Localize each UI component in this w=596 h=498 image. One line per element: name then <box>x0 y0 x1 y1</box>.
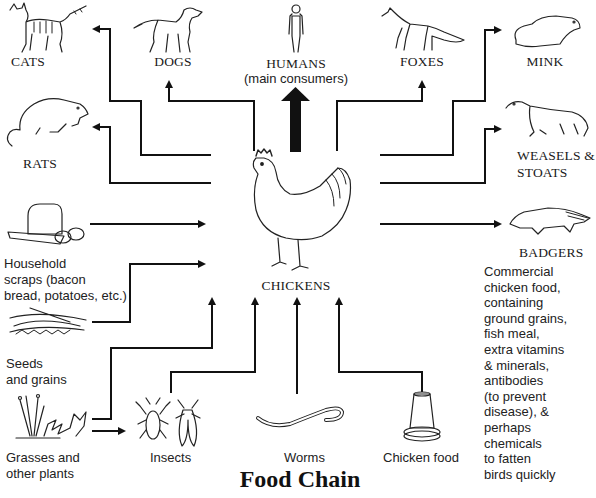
rat-icon <box>7 99 88 146</box>
label-seeds-line1: Seeds <box>6 356 43 372</box>
description-line: chemicals <box>484 436 594 452</box>
label-insects: Insects <box>150 450 191 466</box>
fox-icon <box>382 8 464 50</box>
description-line: birds quickly <box>484 467 594 483</box>
label-humans: HUMANS <box>266 56 326 71</box>
description-line: disease), & <box>484 404 594 420</box>
mink-icon <box>515 16 580 47</box>
badger-icon <box>510 208 590 234</box>
description-line: ground grains, <box>484 311 594 327</box>
chicken-feeder-icon <box>404 392 440 441</box>
description-line: antibodies <box>484 373 594 389</box>
label-household-line3: bread, potatoes, etc.) <box>4 288 127 304</box>
label-badgers: BADGERS <box>519 245 583 260</box>
household-scraps-icon <box>8 204 84 244</box>
description-line: to fatten <box>484 451 594 467</box>
description-line: & minerals, <box>484 358 594 374</box>
label-rats: RATS <box>23 156 57 171</box>
label-worms: Worms <box>284 450 325 466</box>
label-weasels-line2: STOATS <box>517 165 567 180</box>
description-line: Commercial <box>484 264 594 280</box>
cat-icon <box>10 3 86 52</box>
worm-icon <box>258 408 342 425</box>
diagram-title: Food Chain <box>240 466 361 493</box>
label-foxes: FOXES <box>400 54 444 69</box>
label-humans-note: (main consumers) <box>244 71 348 87</box>
description-line: (to prevent <box>484 389 594 405</box>
label-chicken-food: Chicken food <box>383 450 459 466</box>
dog-icon <box>134 8 202 52</box>
label-grasses-line1: Grasses and <box>6 450 80 466</box>
description-line: containing <box>484 295 594 311</box>
description-line: extra vitamins <box>484 342 594 358</box>
label-household-line1: Household <box>4 256 66 272</box>
description-line: chicken food, <box>484 280 594 296</box>
label-dogs: DOGS <box>154 54 192 69</box>
description-line: fish meal, <box>484 326 594 342</box>
human-icon <box>289 5 303 52</box>
insects-icon <box>136 398 200 446</box>
label-mink: MINK <box>527 54 564 69</box>
chicken-icon <box>253 149 350 270</box>
label-seeds-line2: and grains <box>6 372 67 388</box>
grasses-plants-icon <box>16 395 86 439</box>
description-line: perhaps <box>484 420 594 436</box>
commercial-food-description: Commercial chicken food, containing grou… <box>484 264 594 482</box>
label-chickens: CHICKENS <box>261 278 330 293</box>
label-grasses-line2: other plants <box>6 466 74 482</box>
label-cats: CATS <box>11 54 45 69</box>
label-household-line2: scraps (bacon <box>4 272 86 288</box>
seeds-grains-icon <box>10 308 86 334</box>
label-weasels-line1: WEASELS & <box>517 148 595 163</box>
weasel-icon <box>506 102 588 136</box>
